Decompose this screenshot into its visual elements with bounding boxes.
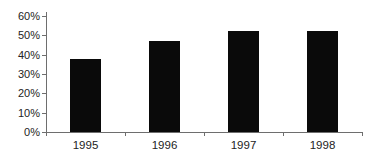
y-tick-label: 20% xyxy=(0,86,40,100)
y-tick-label: 50% xyxy=(0,28,40,42)
y-tick-label: 30% xyxy=(0,67,40,81)
x-tick-label-1996: 1996 xyxy=(125,138,204,152)
y-tick-label: 40% xyxy=(0,48,40,62)
y-tick-label: 0% xyxy=(0,125,40,139)
x-tick xyxy=(362,132,363,136)
x-tick-label-1997: 1997 xyxy=(204,138,283,152)
y-tick xyxy=(42,16,46,17)
y-tick-label: 60% xyxy=(0,9,40,23)
x-tick xyxy=(125,132,126,136)
y-tick xyxy=(42,35,46,36)
bar-chart: 0%10%20%30%40%50%60%1995199619971998 xyxy=(0,0,369,163)
x-tick xyxy=(46,132,47,136)
bar-1997 xyxy=(228,31,259,132)
y-tick-label: 10% xyxy=(0,106,40,120)
bar-1996 xyxy=(149,41,180,132)
x-tick xyxy=(283,132,284,136)
x-tick-label-1998: 1998 xyxy=(283,138,362,152)
bar-1998 xyxy=(307,31,338,132)
x-tick-label-1995: 1995 xyxy=(46,138,125,152)
y-tick xyxy=(42,113,46,114)
bar-1995 xyxy=(70,59,101,132)
y-axis xyxy=(46,12,47,133)
x-tick xyxy=(204,132,205,136)
y-tick xyxy=(42,74,46,75)
y-tick xyxy=(42,55,46,56)
plot-area: 0%10%20%30%40%50%60%1995199619971998 xyxy=(0,0,369,163)
y-tick xyxy=(42,93,46,94)
